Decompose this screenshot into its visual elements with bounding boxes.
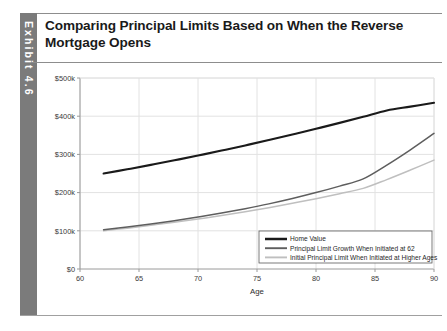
x-axis-title: Age (250, 287, 264, 296)
footer-rule (20, 315, 442, 316)
x-tick-label: 85 (371, 274, 379, 283)
chart-container: $0$100k$200k$300k$400k$500k6065707580859… (45, 66, 442, 311)
x-tick-label: 90 (430, 274, 438, 283)
legend-label: Home Value (290, 235, 326, 242)
legend-label: Principal Limit Growth When Initiated at… (290, 245, 415, 253)
y-tick-label: $200k (55, 188, 75, 197)
y-tick-label: $500k (55, 74, 75, 83)
x-tick-label: 65 (135, 274, 143, 283)
exhibit-figure: Exhibit 4.6 Comparing Principal Limits B… (0, 0, 447, 331)
x-tick-label: 60 (76, 274, 84, 283)
legend-label: Initial Principal Limit When Initiated a… (290, 254, 438, 262)
exhibit-tab: Exhibit 4.6 (20, 13, 37, 316)
chart-legend: Home ValuePrincipal Limit Growth When In… (259, 231, 438, 263)
x-tick-label: 75 (253, 274, 261, 283)
y-tick-label: $400k (55, 112, 75, 121)
line-chart: $0$100k$200k$300k$400k$500k6065707580859… (45, 66, 442, 311)
page-title: Comparing Principal Limits Based on When… (45, 17, 410, 51)
x-tick-label: 70 (194, 274, 202, 283)
exhibit-tab-label: Exhibit 4.6 (20, 21, 37, 97)
y-tick-label: $300k (55, 150, 75, 159)
y-tick-label: $100k (55, 227, 75, 236)
x-tick-label: 80 (312, 274, 320, 283)
header-rule-top (32, 13, 442, 14)
header-rule-bottom (32, 62, 442, 63)
y-tick-label: $0 (67, 265, 75, 274)
